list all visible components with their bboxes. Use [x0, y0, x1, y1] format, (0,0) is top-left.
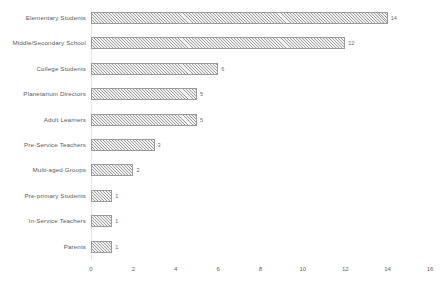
x-tick-label: 10 [288, 262, 318, 276]
category-label: Adult Learners [0, 112, 86, 128]
bar-value-label: 5 [200, 88, 203, 100]
bar-row: Pre-primary Students1 [0, 188, 443, 204]
x-tick-label: 8 [246, 262, 276, 276]
bar[interactable] [91, 88, 197, 100]
bar[interactable] [91, 241, 112, 253]
category-label: In-Service Teachers [0, 213, 86, 229]
bar-value-label: 1 [115, 241, 118, 253]
bar-value-label: 1 [115, 215, 118, 227]
bar-value-label: 14 [391, 12, 397, 24]
bar-value-label: 3 [158, 139, 161, 151]
bar[interactable] [91, 215, 112, 227]
x-tick-label: 4 [161, 262, 191, 276]
bar[interactable] [91, 37, 345, 49]
bar-row: Parents1 [0, 239, 443, 255]
category-label: Parents [0, 239, 86, 255]
category-label: Multi-aged Groups [0, 162, 86, 178]
bar-row: In-Service Teachers1 [0, 213, 443, 229]
bar-row: Planetarium Directors5 [0, 86, 443, 102]
bar[interactable] [91, 164, 133, 176]
category-label: Middle/Secondary School [0, 35, 86, 51]
bar-value-label: 2 [136, 164, 139, 176]
x-tick-label: 14 [373, 262, 403, 276]
bar[interactable] [91, 139, 155, 151]
x-axis: 0246810121416 [0, 262, 443, 282]
bar-row: Pre-Service Teachers3 [0, 137, 443, 153]
bar-row: Multi-aged Groups2 [0, 162, 443, 178]
x-tick-label: 16 [415, 262, 443, 276]
bar[interactable] [91, 114, 197, 126]
category-label: Pre-Service Teachers [0, 137, 86, 153]
category-label: Elementary Students [0, 10, 86, 26]
x-tick-label: 0 [76, 262, 106, 276]
x-tick-label: 6 [203, 262, 233, 276]
bar-row: College Students6 [0, 61, 443, 77]
bar-row: Adult Learners5 [0, 112, 443, 128]
bar[interactable] [91, 63, 218, 75]
bar-row: Elementary Students14 [0, 10, 443, 26]
bar-value-label: 5 [200, 114, 203, 126]
bars-container: Elementary Students14Middle/Secondary Sc… [0, 0, 443, 262]
category-label: College Students [0, 61, 86, 77]
category-label: Planetarium Directors [0, 86, 86, 102]
bar-row: Middle/Secondary School12 [0, 35, 443, 51]
bar[interactable] [91, 190, 112, 202]
bar-value-label: 6 [221, 63, 224, 75]
x-tick-label: 12 [330, 262, 360, 276]
bar-chart: Elementary Students14Middle/Secondary Sc… [0, 0, 443, 291]
bar-value-label: 12 [348, 37, 354, 49]
category-label: Pre-primary Students [0, 188, 86, 204]
bar[interactable] [91, 12, 388, 24]
x-tick-label: 2 [118, 262, 148, 276]
bar-value-label: 1 [115, 190, 118, 202]
